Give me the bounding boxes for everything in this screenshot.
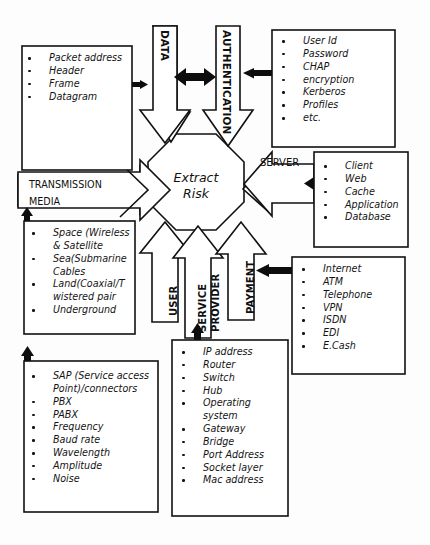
list-item: E.Cash xyxy=(296,340,405,353)
list-item: Underground xyxy=(26,304,134,317)
service-provider-arrow-label-line2: PROVIDER xyxy=(210,274,221,332)
list-item: Telephone xyxy=(296,289,405,302)
list-item: Datagram xyxy=(22,91,132,104)
service-provider-items-list: IP address Router Switch Hub Operating s… xyxy=(176,346,288,487)
payment-items-list: Internet ATM Telephone VPN ISDN EDI E.Ca… xyxy=(296,263,405,353)
list-item: ATM xyxy=(296,276,405,289)
list-item: Packet address xyxy=(22,52,132,65)
center-node-label: Extract Risk xyxy=(152,170,240,202)
data-auth-bidirectional-arrow xyxy=(174,68,216,86)
server-arrow-label: SERVER xyxy=(260,157,299,168)
list-item: Header xyxy=(22,65,132,78)
list-item: IP address xyxy=(176,346,288,359)
list-item: SAP (Service access Point)/connectors xyxy=(26,370,156,396)
list-item: Switch xyxy=(176,372,288,385)
list-item: CHAP xyxy=(276,61,395,74)
user-items-list: SAP (Service access Point)/connectors PB… xyxy=(26,370,156,486)
diagram-canvas: Extract Risk DATA AUTHENTICATION USER SE… xyxy=(0,0,430,545)
data-items-box: Packet address Header Frame Datagram xyxy=(22,52,132,103)
list-item: Operating system xyxy=(176,397,288,423)
list-item: Socket layer xyxy=(176,462,288,475)
transmission-media-label-line1: TRANSMISSION xyxy=(29,179,102,190)
list-item: Application xyxy=(318,199,408,212)
list-item: User Id xyxy=(276,35,395,48)
list-item: Amplitude xyxy=(26,460,156,473)
server-items-box: Client Web Cache Application Database xyxy=(318,160,408,224)
authentication-items-list: User Id Password CHAP encryption Kerbero… xyxy=(276,35,395,125)
packet-to-data-arrow xyxy=(131,80,148,89)
transmission-media-items-list: Space (Wireless & Satellite Sea(Submarin… xyxy=(26,227,134,317)
list-item: Frequency xyxy=(26,421,156,434)
list-item: Hub xyxy=(176,385,288,398)
list-item: Router xyxy=(176,359,288,372)
list-item: Profiles xyxy=(276,99,395,112)
authentication-items-box: User Id Password CHAP encryption Kerbero… xyxy=(276,35,395,125)
list-item: Frame xyxy=(22,78,132,91)
list-item: PABX xyxy=(26,409,156,422)
list-item: Port Address xyxy=(176,449,288,462)
transmission-media-items-box: Space (Wireless & Satellite Sea(Submarin… xyxy=(26,227,134,317)
service-provider-items-box: IP address Router Switch Hub Operating s… xyxy=(176,346,288,487)
auth-items-to-auth-arrow xyxy=(243,68,273,79)
list-item: Noise xyxy=(26,473,156,486)
list-item: Land(Coaxial/T wistered pair xyxy=(26,278,134,304)
list-item: encryption xyxy=(276,74,395,87)
user-items-box: SAP (Service access Point)/connectors PB… xyxy=(26,370,156,486)
list-item: Bridge xyxy=(176,436,288,449)
list-item: Web xyxy=(318,173,408,186)
list-item: Password xyxy=(276,48,395,61)
service-provider-arrow-label-line1: SERVICE xyxy=(197,284,208,332)
server-items-list: Client Web Cache Application Database xyxy=(318,160,408,224)
list-item: Mac address xyxy=(176,474,288,487)
list-item: EDI xyxy=(296,327,405,340)
authentication-arrow-label: AUTHENTICATION xyxy=(221,30,233,135)
list-item: Space (Wireless & Satellite xyxy=(26,227,134,253)
user-arrow xyxy=(140,222,190,322)
transmission-media-label-line2: MEDIA xyxy=(29,196,60,207)
list-item: Gateway xyxy=(176,423,288,436)
payment-items-to-payment-arrow xyxy=(256,264,294,277)
center-node-label-line1: Extract xyxy=(152,170,240,186)
user-arrow-label: USER xyxy=(168,286,179,316)
list-item: VPN xyxy=(296,302,405,315)
list-item: Internet xyxy=(296,263,405,276)
list-item: etc. xyxy=(276,112,395,125)
list-item: ISDN xyxy=(296,314,405,327)
list-item: Wavelength xyxy=(26,447,156,460)
data-arrow-label: DATA xyxy=(159,30,171,61)
list-item: Client xyxy=(318,160,408,173)
list-item: Database xyxy=(318,211,408,224)
list-item: Kerberos xyxy=(276,86,395,99)
list-item: Cache xyxy=(318,186,408,199)
list-item: Baud rate xyxy=(26,434,156,447)
payment-arrow-label: PAYMENT xyxy=(245,261,256,314)
data-items-list: Packet address Header Frame Datagram xyxy=(22,52,132,103)
payment-items-box: Internet ATM Telephone VPN ISDN EDI E.Ca… xyxy=(296,263,405,353)
list-item: PBX xyxy=(26,396,156,409)
list-item: Sea(Submarine Cables xyxy=(26,253,134,279)
center-node-label-line2: Risk xyxy=(152,186,240,202)
